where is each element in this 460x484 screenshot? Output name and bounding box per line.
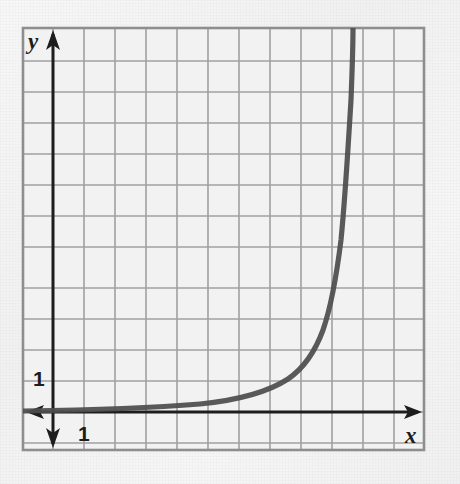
x-axis-tick-label-one: 1 [78,423,90,444]
y-axis-label: y [28,30,38,53]
graph-figure [0,0,460,484]
x-axis-label: x [405,424,417,447]
y-axis-tick-label-one: 1 [33,368,45,389]
